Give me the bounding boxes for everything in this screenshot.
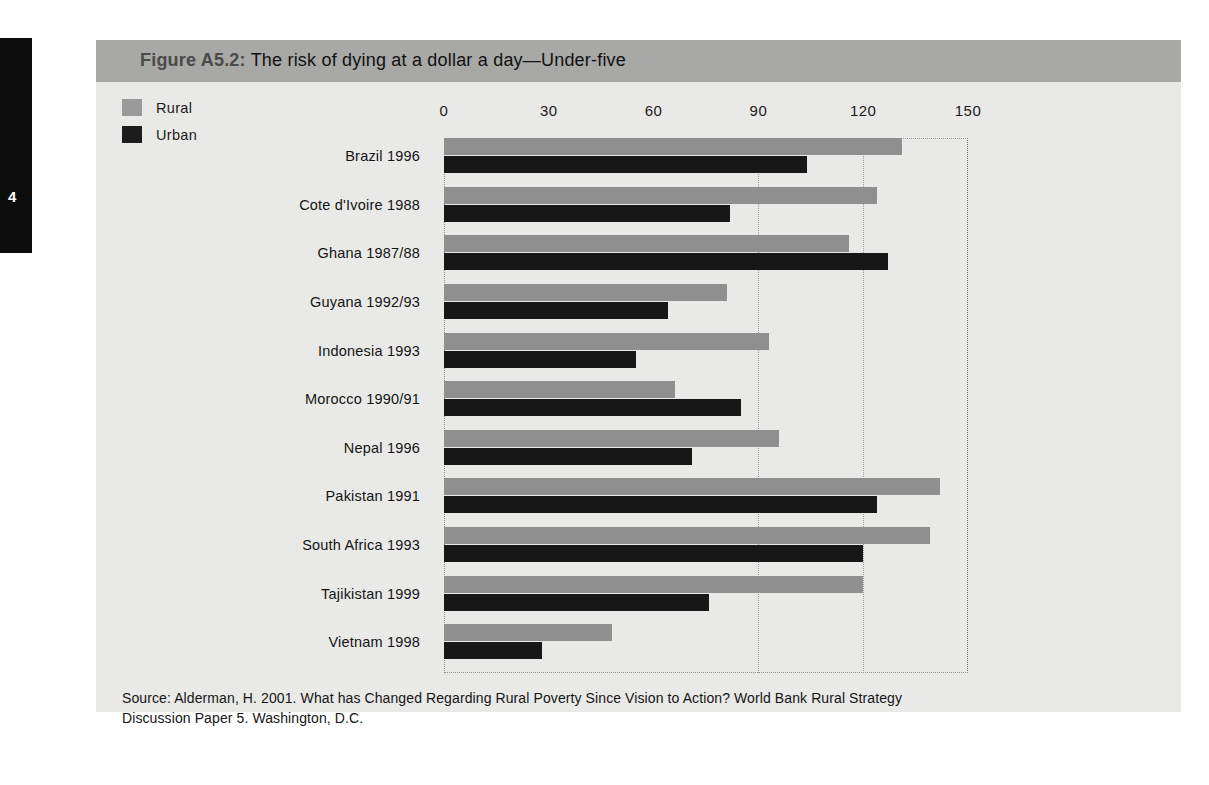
legend-label-rural: Rural xyxy=(156,100,192,116)
y-axis-category-labels: Brazil 1996Cote d'Ivoire 1988Ghana 1987/… xyxy=(180,138,432,673)
x-axis-tick-labels: 0306090120150 xyxy=(444,102,968,128)
legend-swatch-urban xyxy=(122,126,142,143)
bar-rural-3 xyxy=(444,284,727,301)
bar-urban-10 xyxy=(444,642,542,659)
figure-caption: The risk of dying at a dollar a day—Unde… xyxy=(251,50,626,70)
bar-rural-10 xyxy=(444,624,612,641)
x-tick-label-60: 60 xyxy=(645,102,663,119)
legend-item-rural: Rural xyxy=(122,96,197,119)
bar-urban-3 xyxy=(444,302,668,319)
x-tick-label-150: 150 xyxy=(955,102,982,119)
bar-rural-2 xyxy=(444,235,849,252)
category-label-2: Ghana 1987/88 xyxy=(317,245,420,261)
category-label-3: Guyana 1992/93 xyxy=(310,294,420,310)
bar-rural-8 xyxy=(444,527,930,544)
figure-source-note: Source: Alderman, H. 2001. What has Chan… xyxy=(122,688,1122,729)
x-tick-label-120: 120 xyxy=(850,102,877,119)
bar-chart-plot-area xyxy=(444,138,968,673)
bar-rural-4 xyxy=(444,333,769,350)
bar-urban-4 xyxy=(444,351,636,368)
category-label-4: Indonesia 1993 xyxy=(318,343,420,359)
x-tick-label-0: 0 xyxy=(440,102,449,119)
bar-rural-9 xyxy=(444,576,863,593)
legend-swatch-rural xyxy=(122,99,142,116)
bar-urban-0 xyxy=(444,156,807,173)
page-thumb-tab: 4 xyxy=(0,38,32,253)
figure-number: Figure A5.2: xyxy=(140,50,246,70)
category-label-10: Vietnam 1998 xyxy=(328,634,420,650)
x-tick-label-30: 30 xyxy=(540,102,558,119)
category-label-9: Tajikistan 1999 xyxy=(321,586,420,602)
bar-urban-9 xyxy=(444,594,709,611)
category-label-0: Brazil 1996 xyxy=(345,148,420,164)
category-label-1: Cote d'Ivoire 1988 xyxy=(299,197,420,213)
gridline-120 xyxy=(863,138,864,673)
bar-rural-0 xyxy=(444,138,902,155)
bar-rural-7 xyxy=(444,478,940,495)
source-line-2: Discussion Paper 5. Washington, D.C. xyxy=(122,708,1122,728)
bar-urban-5 xyxy=(444,399,741,416)
category-label-5: Morocco 1990/91 xyxy=(305,391,420,407)
figure-title: Figure A5.2: The risk of dying at a doll… xyxy=(140,50,626,71)
bar-rural-1 xyxy=(444,187,877,204)
source-line-1: Source: Alderman, H. 2001. What has Chan… xyxy=(122,690,902,706)
gridline-90 xyxy=(758,138,759,673)
category-label-7: Pakistan 1991 xyxy=(326,488,421,504)
x-tick-label-90: 90 xyxy=(750,102,768,119)
bar-rural-6 xyxy=(444,430,779,447)
bar-urban-1 xyxy=(444,205,730,222)
bar-urban-6 xyxy=(444,448,692,465)
bar-rural-5 xyxy=(444,381,675,398)
bar-urban-2 xyxy=(444,253,888,270)
page-canvas: 4 Figure A5.2: The risk of dying at a do… xyxy=(0,0,1209,785)
bar-urban-7 xyxy=(444,496,877,513)
category-label-8: South Africa 1993 xyxy=(302,537,420,553)
page-number: 4 xyxy=(8,188,17,205)
bar-urban-8 xyxy=(444,545,863,562)
category-label-6: Nepal 1996 xyxy=(344,440,420,456)
